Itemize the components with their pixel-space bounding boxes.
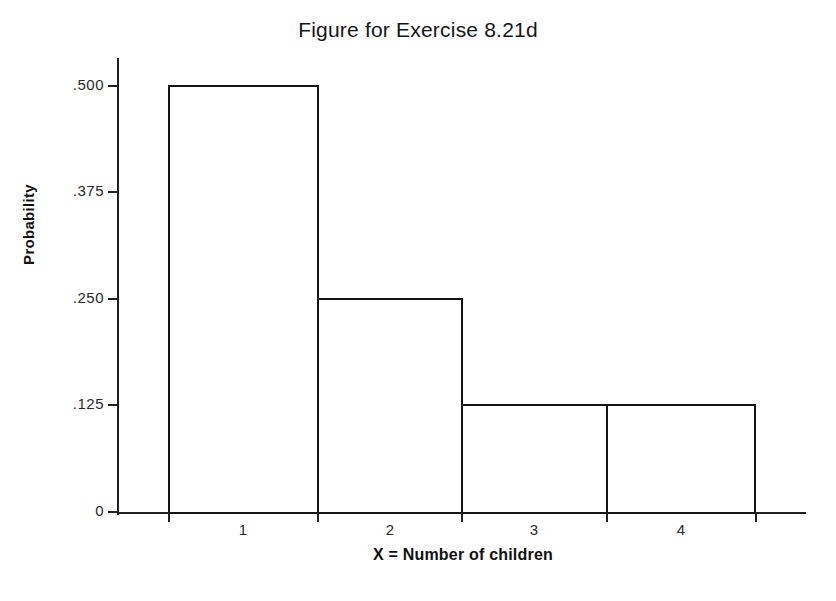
x-tick-mark — [606, 513, 608, 522]
y-tick-label-125: .125 — [26, 395, 104, 412]
figure-container: Figure for Exercise 8.21d Probability X … — [0, 0, 836, 601]
y-tick-label-500: .500 — [26, 76, 104, 93]
bar-category-1 — [168, 85, 319, 514]
y-axis-title: Probability — [20, 155, 37, 295]
y-axis-line — [117, 58, 119, 515]
y-tick-label-0: 0 — [26, 502, 104, 519]
x-axis-title: X = Number of children — [118, 546, 808, 564]
x-tick-label-4: 4 — [661, 521, 701, 538]
bar-category-2 — [317, 298, 463, 514]
y-tick-label-375: .375 — [26, 182, 104, 199]
y-tick-mark — [108, 404, 118, 406]
bar-category-4 — [606, 404, 756, 514]
y-tick-label-250: .250 — [26, 289, 104, 306]
x-tick-label-3: 3 — [514, 521, 554, 538]
x-tick-mark — [168, 513, 170, 522]
x-tick-label-2: 2 — [370, 521, 410, 538]
y-tick-mark — [108, 191, 118, 193]
y-tick-mark — [108, 511, 118, 513]
x-tick-mark — [317, 513, 319, 522]
bar-category-3 — [461, 404, 608, 514]
x-tick-mark — [461, 513, 463, 522]
x-tick-label-1: 1 — [223, 521, 263, 538]
x-tick-mark — [755, 513, 757, 522]
y-tick-mark — [108, 85, 118, 87]
plot-area: Probability X = Number of children .500 … — [0, 0, 836, 601]
y-tick-mark — [108, 298, 118, 300]
